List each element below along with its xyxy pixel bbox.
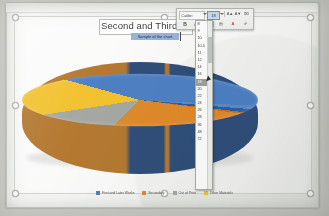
legend-label: First and Later Works: [102, 191, 134, 195]
resize-handle-top-left[interactable]: [12, 14, 19, 21]
legend-item[interactable]: First and Later Works: [96, 191, 134, 195]
toolbar-divider: [224, 11, 225, 17]
page-top-margin: [6, 3, 317, 13]
highlight-icon[interactable]: ▤: [217, 20, 225, 28]
resize-handle-top-right[interactable]: [307, 14, 314, 21]
resize-handle-bottom-left[interactable]: [12, 190, 19, 197]
font-size-dropdown[interactable]: 891010.511121416182022242628364872: [195, 20, 213, 190]
legend-item[interactable]: Out of Print: [173, 191, 196, 195]
chart-legend[interactable]: First and Later Works Secondary Out of P…: [96, 189, 246, 197]
bold-icon[interactable]: B: [181, 20, 189, 28]
pie-3d-top: [22, 74, 258, 127]
scrollbar-thumb[interactable]: [208, 37, 212, 63]
pie-chart[interactable]: [22, 44, 258, 174]
legend-item[interactable]: Secondary: [142, 191, 164, 195]
grow-font-icon[interactable]: A▲: [226, 10, 234, 18]
shrink-font-icon[interactable]: A▼: [234, 10, 242, 18]
resize-handle-bottom-right[interactable]: [307, 190, 314, 197]
legend-swatch: [173, 191, 177, 195]
text-cursor: [180, 32, 181, 41]
legend-swatch: [96, 191, 100, 195]
mini-font-toolbar[interactable]: Calibri 18 A▲ A▼ ⌧ B I U ▤ A ✐: [176, 8, 254, 30]
toolbar-divider: [213, 21, 214, 27]
resize-handle-middle-right[interactable]: [307, 102, 314, 109]
legend-swatch: [142, 191, 146, 195]
legend-label: Out of Print: [179, 191, 196, 195]
format-painter-icon[interactable]: ✐: [241, 20, 249, 28]
legend-swatch: [204, 191, 208, 195]
legend-item[interactable]: Other Materials: [204, 191, 233, 195]
legend-label: Secondary: [148, 191, 164, 195]
clear-formatting-icon[interactable]: ⌧: [242, 10, 250, 18]
resize-handle-middle-left[interactable]: [12, 102, 19, 109]
mini-toolbar-row-1: Calibri 18 A▲ A▼ ⌧: [177, 9, 253, 19]
font-color-icon[interactable]: A: [229, 20, 237, 28]
mini-toolbar-row-2: B I U ▤ A ✐: [177, 19, 253, 29]
chart-subtitle-selected-text[interactable]: Sample of the chart: [131, 33, 179, 40]
legend-label: Other Materials: [210, 191, 233, 195]
dropdown-scrollbar[interactable]: [207, 21, 212, 189]
screenshot-root: Second and Third Sample of the chart Fir…: [0, 0, 329, 216]
